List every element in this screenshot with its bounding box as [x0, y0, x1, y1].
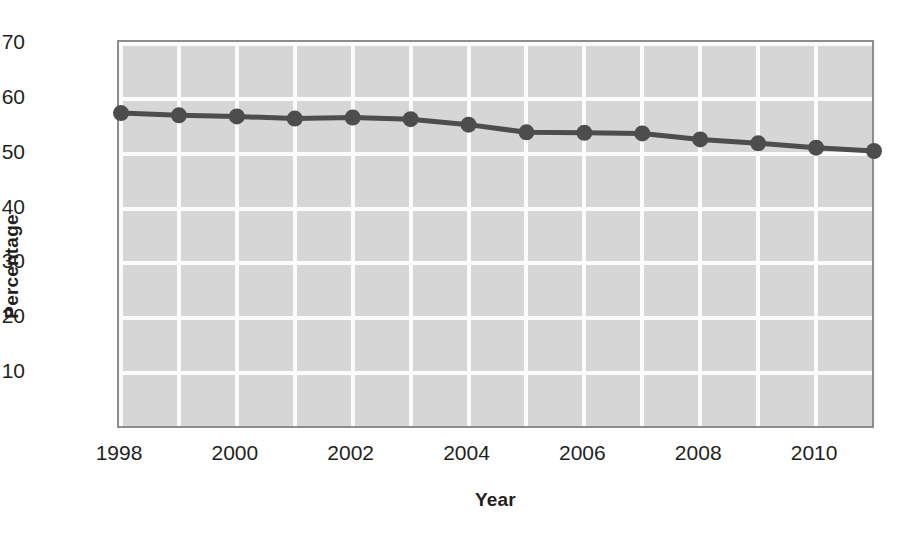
data-point-marker [287, 111, 303, 127]
x-tick-label: 2004 [422, 441, 512, 465]
data-point-marker [229, 108, 245, 124]
data-point-marker [866, 143, 882, 159]
data-point-marker [461, 117, 477, 133]
data-point-marker [403, 111, 419, 127]
data-point-marker [171, 107, 187, 123]
y-tick-label: 30 [0, 249, 25, 273]
x-tick-label: 2010 [769, 441, 859, 465]
x-tick-label: 2008 [653, 441, 743, 465]
plot-area [117, 40, 874, 428]
data-point-marker [345, 110, 361, 126]
data-point-marker [808, 140, 824, 156]
data-point-marker [576, 125, 592, 141]
x-tick-label: 2000 [190, 441, 280, 465]
y-tick-label: 20 [0, 304, 25, 328]
y-tick-label: 50 [0, 140, 25, 164]
x-tick-label: 2006 [537, 441, 627, 465]
x-axis-title: Year [118, 489, 873, 511]
y-tick-label: 40 [0, 195, 25, 219]
y-tick-label: 10 [0, 359, 25, 383]
x-tick-label: 1998 [74, 441, 164, 465]
y-tick-label: 60 [0, 85, 25, 109]
chart-figure: Percentage Year 102030405060701998200020… [0, 0, 904, 533]
data-point-marker [750, 135, 766, 151]
data-point-marker [692, 131, 708, 147]
data-point-marker [634, 125, 650, 141]
data-point-marker [113, 105, 129, 121]
data-point-marker [518, 124, 534, 140]
y-tick-label: 70 [0, 30, 25, 54]
x-tick-label: 2002 [306, 441, 396, 465]
data-series-line [117, 40, 874, 428]
